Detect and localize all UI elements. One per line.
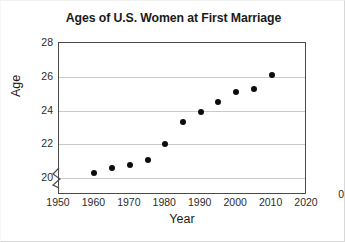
x-tick-label: 1970 <box>109 196 149 208</box>
x-tick-label: 1990 <box>180 196 220 208</box>
x-tick-label: 1980 <box>144 196 184 208</box>
y-axis-origin-label: 0 <box>318 189 344 199</box>
x-tick-label: 1960 <box>73 196 113 208</box>
x-tick-label: 2000 <box>215 196 255 208</box>
axis-break-icon <box>50 167 64 189</box>
x-tick-label: 2010 <box>251 196 291 208</box>
x-axis-tick-labels: 19501960197019801990200020102020 <box>1 1 345 242</box>
x-tick-label: 1950 <box>38 196 78 208</box>
chart-figure: Ages of U.S. Women at First Marriage 282… <box>0 0 345 242</box>
x-axis-title: Year <box>58 212 306 226</box>
y-axis-title: Age <box>9 75 23 97</box>
